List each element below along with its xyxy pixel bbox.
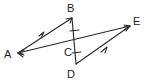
segment-DE	[76, 26, 130, 64]
vertex-labels-group: A B C D E	[4, 2, 140, 80]
vertex-label-E: E	[133, 15, 140, 27]
parallel-mark-DE	[101, 47, 107, 53]
segments-group	[18, 18, 130, 64]
tick-on-CD	[72, 52, 81, 53]
geometry-canvas: A B C D E	[0, 0, 147, 81]
segment-BD	[72, 18, 76, 64]
vertex-label-D: D	[67, 68, 75, 80]
vertex-label-A: A	[4, 48, 12, 60]
vertex-label-B: B	[67, 2, 74, 14]
arrowhead-at-A-lower	[18, 53, 23, 57]
vertex-label-C: C	[64, 46, 72, 58]
tick-on-BC	[70, 30, 79, 31]
geometry-figure: A B C D E	[0, 0, 147, 81]
